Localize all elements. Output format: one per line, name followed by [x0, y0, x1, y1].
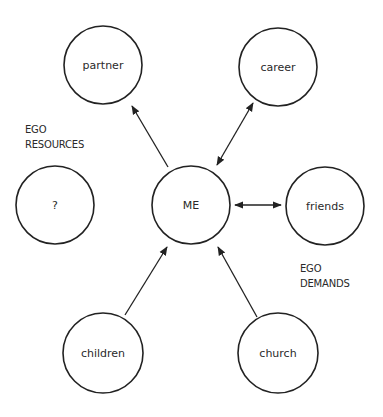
node-friends: friends — [286, 167, 364, 245]
node-label: friends — [306, 200, 344, 213]
edge-children-me-arrow — [125, 247, 167, 315]
nodes-group: MEpartnercareer?friendschildrenchurch — [16, 26, 364, 393]
ego-demands-label: EGODEMANDS — [300, 263, 350, 289]
edge-me-career-arrow — [217, 103, 253, 165]
edge-me-partner-arrow — [132, 106, 168, 167]
node-partner: partner — [64, 26, 142, 104]
node-label: career — [260, 61, 296, 74]
node-label: church — [259, 347, 296, 360]
center-node-me: ME — [152, 166, 230, 244]
node-children: children — [63, 313, 143, 393]
ego-resources-line-2: RESOURCES — [25, 139, 84, 150]
node-church: church — [238, 313, 318, 393]
ego-resources-label: EGORESOURCES — [25, 124, 84, 150]
ego-demands-line-2: DEMANDS — [300, 278, 350, 289]
node-unknown: ? — [16, 166, 94, 244]
node-label: ? — [52, 199, 58, 212]
ego-demands-line-1: EGO — [300, 263, 322, 274]
node-label: children — [81, 347, 125, 360]
ego-network-diagram: MEpartnercareer?friendschildrenchurch EG… — [0, 0, 383, 417]
node-career: career — [239, 28, 317, 106]
edge-church-me-arrow — [218, 247, 257, 317]
node-label: ME — [183, 199, 199, 212]
node-label: partner — [83, 59, 124, 72]
ego-resources-line-1: EGO — [25, 124, 47, 135]
